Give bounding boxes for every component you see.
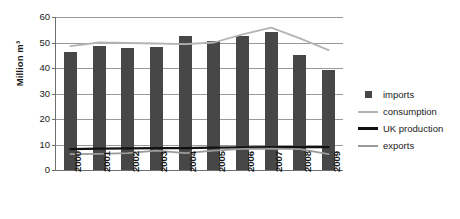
y-axis-tick-label: 30 [39, 89, 50, 99]
legend-label: consumption [383, 106, 437, 117]
legend-item-imports[interactable]: imports [357, 86, 459, 103]
y-axis-tick-label: 0 [45, 165, 50, 175]
y-axis-title: Million m³ [14, 19, 25, 109]
x-axis-tick-label-2006: 2006 [246, 151, 256, 172]
legend-item-exports[interactable]: exports [357, 137, 459, 154]
x-axis-tick-label-2009: 2009 [332, 151, 342, 172]
legend-swatch [358, 145, 378, 147]
chart-container: Million m³ 0102030405060 200020012002200… [0, 0, 460, 219]
x-axis-tick-label-2000: 2000 [73, 151, 83, 172]
legend-swatch [365, 91, 372, 98]
y-axis-tick-label: 10 [39, 140, 50, 150]
x-axis-tick-label-2005: 2005 [217, 151, 227, 172]
y-axis-tick-labels: 0102030405060 [24, 0, 50, 219]
x-axis-tick-labels: 2000200120022003200420052006200720082009 [55, 172, 342, 218]
y-axis-tick-label: 40 [39, 63, 50, 73]
x-axis-tick-label-2007: 2007 [274, 151, 284, 172]
y-axis-tick-label: 50 [39, 38, 50, 48]
legend-label: exports [383, 140, 414, 151]
line-consumption [70, 28, 328, 50]
legend-line-icon [357, 127, 379, 130]
y-axis-tick-label: 20 [39, 114, 50, 124]
x-axis-tick-label-2004: 2004 [188, 151, 198, 172]
legend-line-icon [357, 111, 379, 113]
y-axis-tick-label: 60 [39, 12, 50, 22]
line-series-layer [56, 17, 343, 170]
legend-label: imports [383, 89, 414, 100]
legend-item-consumption[interactable]: consumption [357, 103, 459, 120]
legend-line-icon [357, 145, 379, 147]
x-axis-tick-label-2008: 2008 [303, 151, 313, 172]
legend-swatch [358, 111, 378, 113]
legend-swatch [358, 127, 378, 130]
legend-label: UK production [383, 123, 443, 134]
x-axis-tick-label-2003: 2003 [159, 151, 169, 172]
legend-item-uk-production[interactable]: UK production [357, 120, 459, 137]
plot-area [55, 17, 343, 170]
legend-square-icon [357, 91, 379, 98]
x-axis-tick-label-2001: 2001 [102, 151, 112, 172]
y-axis-tick-mark [52, 170, 56, 171]
x-axis-tick-label-2002: 2002 [131, 151, 141, 172]
chart-legend: importsconsumptionUK productionexports [357, 86, 459, 154]
